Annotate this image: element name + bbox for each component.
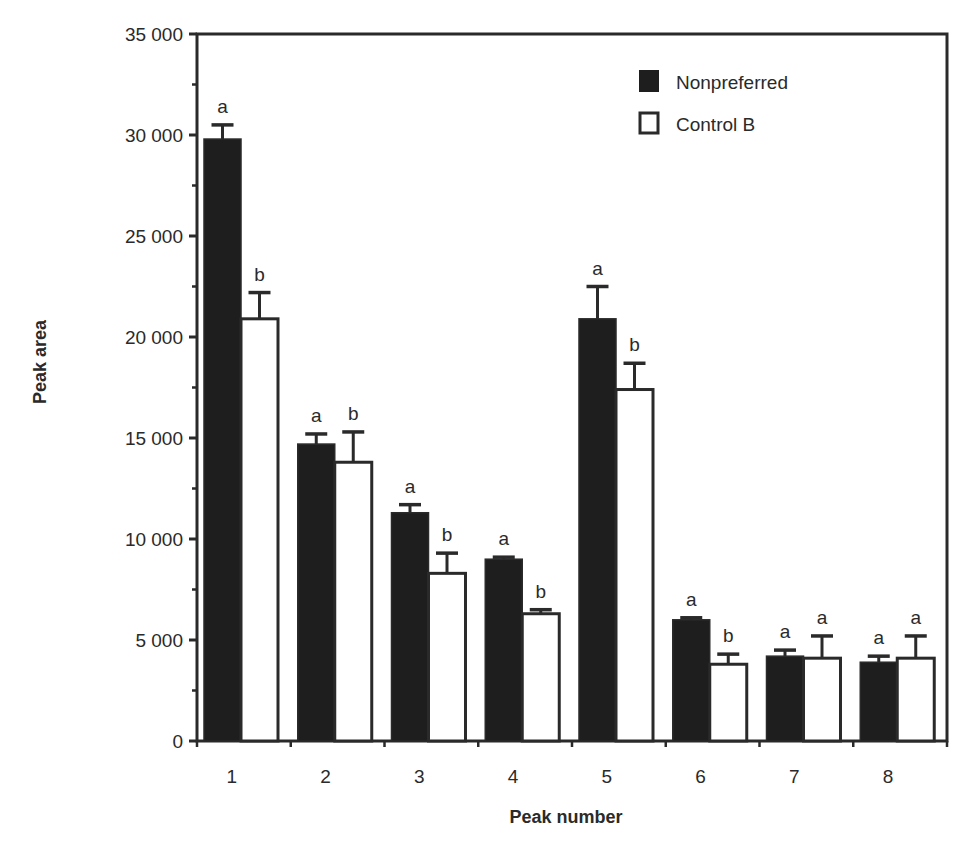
y-tick-label: 0 (172, 731, 183, 752)
bar-rect (485, 559, 522, 741)
legend-swatch-filled (639, 70, 659, 92)
y-axis: 05 00010 00015 00020 00025 00030 00035 0… (125, 24, 197, 752)
significance-letter: a (817, 607, 828, 628)
legend-item-nonpreferred: Nonpreferred (639, 70, 788, 93)
bar-rect (616, 390, 653, 741)
bar-rect (335, 462, 372, 741)
x-tick-label: 1 (227, 766, 238, 787)
bar-chart: 05 00010 00015 00020 00025 00030 00035 0… (0, 0, 973, 850)
bar-rect (429, 573, 466, 741)
x-tick-label: 7 (789, 766, 800, 787)
x-axis: 12345678 (197, 741, 947, 787)
bar-rect (298, 444, 335, 741)
significance-letter: a (405, 476, 416, 497)
significance-letter: a (592, 258, 603, 279)
bar-nonpreferred-peak-2: a (298, 405, 335, 741)
bar-nonpreferred-peak-5: a (579, 258, 616, 742)
bar-control-b-peak-8: a (897, 607, 934, 741)
bar-rect (804, 658, 841, 741)
bar-control-b-peak-3: b (429, 524, 466, 741)
bar-nonpreferred-peak-1: a (204, 96, 241, 741)
bar-control-b-peak-4: b (522, 581, 559, 741)
x-tick-label: 5 (602, 766, 613, 787)
bar-rect (710, 664, 747, 741)
legend-label: Nonpreferred (676, 72, 788, 93)
legend-label: Control B (676, 114, 755, 135)
legend-item-control-b: Control B (640, 113, 755, 135)
bar-control-b-peak-6: b (710, 625, 747, 741)
y-tick-label: 5 000 (135, 630, 183, 651)
x-tick-label: 4 (508, 766, 519, 787)
significance-letter: a (311, 405, 322, 426)
y-tick-label: 30 000 (125, 125, 183, 146)
bar-control-b-peak-1: b (241, 264, 278, 741)
bar-rect (673, 620, 710, 741)
significance-letter: a (498, 528, 509, 549)
y-tick-label: 20 000 (125, 327, 183, 348)
legend: NonpreferredControl B (639, 70, 788, 135)
y-tick-label: 35 000 (125, 24, 183, 45)
bar-nonpreferred-peak-8: a (860, 627, 897, 741)
bar-nonpreferred-peak-6: a (673, 589, 710, 741)
y-tick-label: 25 000 (125, 226, 183, 247)
bar-nonpreferred-peak-7: a (767, 621, 804, 741)
y-tick-label: 10 000 (125, 529, 183, 550)
x-tick-label: 2 (320, 766, 331, 787)
bar-rect (579, 319, 616, 741)
significance-letter: b (348, 403, 359, 424)
x-tick-label: 6 (695, 766, 706, 787)
bar-rect (522, 614, 559, 741)
significance-letter: b (535, 581, 546, 602)
significance-letter: a (780, 621, 791, 642)
significance-letter: b (254, 264, 265, 285)
bar-rect (392, 513, 429, 741)
bar-nonpreferred-peak-3: a (392, 476, 429, 741)
significance-letter: a (910, 607, 921, 628)
bar-control-b-peak-5: b (616, 334, 653, 741)
bar-rect (860, 662, 897, 741)
significance-letter: a (217, 96, 228, 117)
bar-nonpreferred-peak-4: a (485, 528, 522, 741)
bar-rect (897, 658, 934, 741)
significance-letter: b (723, 625, 734, 646)
bars: ababababababaaaa (204, 96, 934, 741)
bar-rect (767, 656, 804, 741)
bar-control-b-peak-2: b (335, 403, 372, 741)
significance-letter: a (686, 589, 697, 610)
bar-control-b-peak-7: a (804, 607, 841, 741)
significance-letter: b (629, 334, 640, 355)
bar-rect (204, 139, 241, 741)
y-axis-title: Peak area (30, 319, 50, 404)
x-tick-label: 8 (883, 766, 894, 787)
legend-swatch-open (640, 113, 658, 133)
significance-letter: b (442, 524, 453, 545)
x-tick-label: 3 (414, 766, 425, 787)
significance-letter: a (873, 627, 884, 648)
x-axis-title: Peak number (509, 807, 622, 827)
y-tick-label: 15 000 (125, 428, 183, 449)
bar-rect (241, 319, 278, 741)
